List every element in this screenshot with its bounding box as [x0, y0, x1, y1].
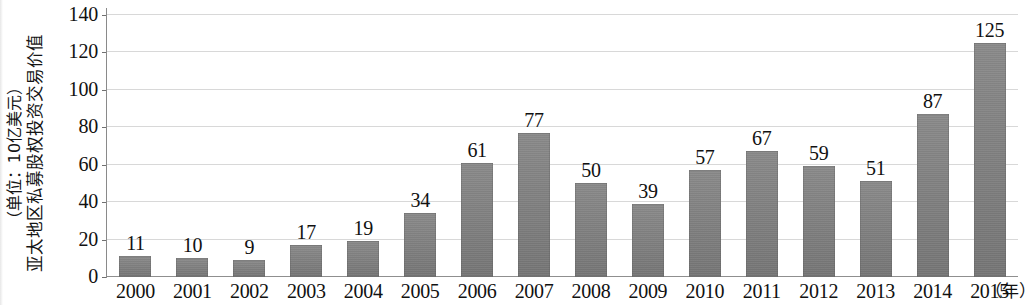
bar-group: 67 — [733, 8, 790, 277]
x-tick-label-2004: 2004 — [335, 279, 392, 303]
bar-2004 — [347, 241, 379, 277]
x-tick-label-2012: 2012 — [790, 279, 847, 303]
bar-2012 — [803, 166, 835, 277]
x-tick-label-2005: 2005 — [392, 279, 449, 303]
bar-2013 — [860, 181, 892, 277]
bar-group: 77 — [506, 8, 563, 277]
x-tick-label-2001: 2001 — [164, 279, 221, 303]
bar-value-label-2006: 61 — [467, 140, 486, 160]
x-tick-label-2000: 2000 — [107, 279, 164, 303]
bar-group: 10 — [164, 8, 221, 277]
x-tick-label-2002: 2002 — [221, 279, 278, 303]
bar-group: 51 — [847, 8, 904, 277]
y-tick-label-120: 120 — [52, 41, 98, 61]
bar-value-label-2012: 59 — [809, 143, 828, 163]
bar-value-label-2001: 10 — [183, 235, 202, 255]
x-tick-label-2006: 2006 — [449, 279, 506, 303]
plot-area: 11109171934617750395767595187125 — [107, 8, 1018, 277]
x-axis-labels: 2000200120022003200420052006200720082009… — [107, 279, 1018, 305]
bar-2010 — [689, 170, 721, 277]
bar-2007 — [518, 133, 550, 277]
bar-group: 125 — [961, 8, 1018, 277]
bar-value-label-2005: 34 — [410, 190, 429, 210]
bar-value-label-2000: 11 — [126, 233, 145, 253]
bar-group: 59 — [790, 8, 847, 277]
x-tick-label-2008: 2008 — [563, 279, 620, 303]
x-tick-label-2003: 2003 — [278, 279, 335, 303]
y-tick-label-80: 80 — [52, 116, 98, 136]
x-tick-label-2013: 2013 — [847, 279, 904, 303]
y-tick-label-140: 140 — [52, 4, 98, 24]
x-tick-label-2009: 2009 — [619, 279, 676, 303]
bar-group: 9 — [221, 8, 278, 277]
bar-value-label-2010: 57 — [695, 147, 714, 167]
bar-2000 — [119, 256, 151, 277]
bar-value-label-2007: 77 — [524, 110, 543, 130]
bar-group: 34 — [392, 8, 449, 277]
bar-2015 — [974, 43, 1006, 277]
bar-2014 — [917, 114, 949, 277]
bar-2009 — [632, 204, 664, 277]
bar-2006 — [461, 163, 493, 277]
bar-series: 11109171934617750395767595187125 — [107, 8, 1018, 277]
x-axis-unit-label: （年） — [985, 279, 1029, 303]
bar-group: 39 — [619, 8, 676, 277]
bar-group: 87 — [904, 8, 961, 277]
bar-group: 61 — [449, 8, 506, 277]
bar-chart-figure: 亚太地区私募股权投资交易价值 （单位：10亿美元） 02040608010012… — [0, 0, 1029, 305]
bar-2003 — [290, 245, 322, 277]
bar-2001 — [176, 258, 208, 277]
bar-value-label-2013: 51 — [866, 158, 885, 178]
bar-group: 19 — [335, 8, 392, 277]
bar-value-label-2002: 9 — [244, 237, 254, 257]
bar-2005 — [404, 213, 436, 277]
y-axis-ticks: 020406080100120140 — [0, 0, 107, 305]
x-tick-label-2010: 2010 — [676, 279, 733, 303]
bar-group: 17 — [278, 8, 335, 277]
y-tick-label-0: 0 — [52, 266, 98, 286]
bar-value-label-2004: 19 — [354, 218, 373, 238]
y-tick-label-60: 60 — [52, 154, 98, 174]
bar-2011 — [746, 151, 778, 277]
y-tick-label-20: 20 — [52, 229, 98, 249]
bar-group: 57 — [676, 8, 733, 277]
bar-value-label-2014: 87 — [923, 91, 942, 111]
bar-group: 11 — [107, 8, 164, 277]
bar-2008 — [575, 183, 607, 277]
bar-value-label-2015: 125 — [975, 20, 1004, 40]
x-tick-label-2011: 2011 — [733, 279, 790, 303]
bar-value-label-2008: 50 — [581, 160, 600, 180]
bar-value-label-2009: 39 — [638, 181, 657, 201]
bar-group: 50 — [563, 8, 620, 277]
x-tick-label-2014: 2014 — [904, 279, 961, 303]
bar-value-label-2011: 67 — [752, 128, 771, 148]
bar-value-label-2003: 17 — [297, 222, 316, 242]
bar-2002 — [233, 260, 265, 277]
y-tick-label-40: 40 — [52, 191, 98, 211]
x-tick-label-2007: 2007 — [506, 279, 563, 303]
y-tick-label-100: 100 — [52, 79, 98, 99]
